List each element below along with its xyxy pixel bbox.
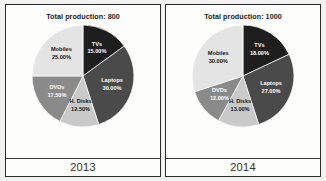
- chart-panel-2013: Total production: 800 TVs15.00%Laptops30…: [5, 4, 161, 177]
- pie-svg-2014: [191, 24, 295, 128]
- pie-svg-2013: [31, 24, 135, 128]
- pie-chart-2013: TVs15.00%Laptops30.00%H. Disks12.50%DVDs…: [31, 24, 135, 128]
- pie-charts-figure: Total production: 800 TVs15.00%Laptops30…: [0, 0, 326, 181]
- chart-title-2014: Total production: 1000: [204, 12, 282, 21]
- chart-title-2013: Total production: 800: [46, 12, 120, 21]
- chart-caption-2013: 2013: [6, 159, 160, 176]
- pie-chart-2014: TVs18.00%Laptops27.00%H. Disks13.00%DVDs…: [191, 24, 295, 128]
- chart-caption-2014: 2014: [166, 159, 320, 176]
- pie-slice: [32, 25, 83, 76]
- chart-panel-2014: Total production: 1000 TVs18.00%Laptops2…: [165, 4, 321, 177]
